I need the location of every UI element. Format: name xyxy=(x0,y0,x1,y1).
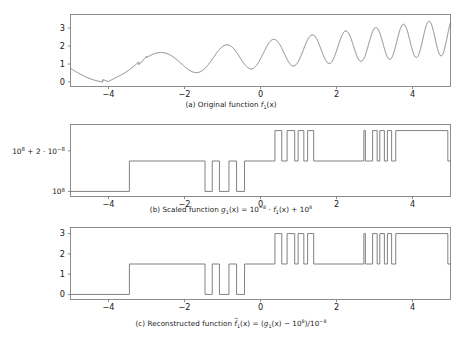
minus-c: − xyxy=(284,319,290,328)
x-tick-label: −4 xyxy=(102,302,114,312)
x-tick-label: −2 xyxy=(178,89,190,99)
panel-c-x-ticks: −4−2024 xyxy=(102,300,415,313)
panel-c-caption-formula: f~1(x) = (g1(x) − 108)/10−8 xyxy=(234,319,326,328)
eq-b: = xyxy=(241,205,247,214)
scale-exp-b: −8 xyxy=(259,204,266,210)
panel-a-original-function: 0123 −4−2024 (a) Original function f1(x) xyxy=(0,0,462,118)
x-tick-label: 0 xyxy=(258,302,263,312)
panel-a-caption: (a) Original function f1(x) xyxy=(0,100,462,110)
panel-a-x-ticks: −4−2024 xyxy=(102,87,415,100)
panel-b-scaled-function: 108108 + 2 · 10−8 −4−2024 (b) Scaled fun… xyxy=(0,112,462,224)
y-tick-label: 0 xyxy=(60,77,65,87)
eq-c: = xyxy=(252,319,258,328)
panel-a-caption-symbol: f1(x) xyxy=(261,100,277,109)
panel-c-reconstructed-function: 0123 −4−2024 (c) Reconstructed function … xyxy=(0,218,462,338)
y-tick-label: 108 xyxy=(52,187,65,197)
panel-c-y-ticks: 0123 xyxy=(60,228,71,299)
panel-a-y-ticks: 0123 xyxy=(60,23,71,87)
y-tick-label: 108 + 2 · 10−8 xyxy=(12,146,65,156)
panel-b-caption-prefix: (b) Scaled function xyxy=(150,205,219,214)
figure-three-panel-precision-loss: 0123 −4−2024 (a) Original function f1(x)… xyxy=(0,0,462,338)
fn-arg-b: (x) xyxy=(279,205,289,214)
y-tick-label: 2 xyxy=(60,249,65,259)
y-tick-label: 3 xyxy=(60,228,65,238)
panel-a-data-curve xyxy=(71,21,451,82)
y-tick-label: 3 xyxy=(60,23,65,33)
offset-base-b: 10 xyxy=(300,205,309,214)
fn-arg-c: (x) xyxy=(240,319,250,328)
panel-b-data-curve xyxy=(71,131,451,192)
panel-c-caption: (c) Reconstructed function f~1(x) = (g1(… xyxy=(0,318,462,330)
x-tick-label: 4 xyxy=(410,302,415,312)
x-tick-label: 2 xyxy=(334,302,339,312)
offset-exp-b: 8 xyxy=(309,204,312,210)
g-arg-c: (x) xyxy=(272,319,282,328)
scale-exp-c: −8 xyxy=(319,318,326,324)
y-tick-label: 2 xyxy=(60,41,65,51)
g-arg-b: (x) xyxy=(229,205,239,214)
fn-arg-a: (x) xyxy=(267,100,277,109)
y-tick-label: 0 xyxy=(60,289,65,299)
scale-base-c: 10 xyxy=(310,319,319,328)
x-tick-label: 2 xyxy=(334,89,339,99)
tilde-accent-c: ~ xyxy=(234,315,239,321)
scale-base-b: 10 xyxy=(250,205,259,214)
panel-c-data-curve xyxy=(71,234,451,295)
y-tick-label: 1 xyxy=(60,269,65,279)
panel-b-caption: (b) Scaled function g1(x) = 10−8 · f1(x)… xyxy=(0,204,462,216)
panel-c-caption-prefix: (c) Reconstructed function xyxy=(135,319,232,328)
panel-b-axes xyxy=(71,125,451,197)
panel-a-caption-prefix: (a) Original function xyxy=(185,100,258,109)
dot-b: · xyxy=(269,205,271,214)
y-tick-label: 1 xyxy=(60,59,65,69)
panel-b-caption-formula: g1(x) = 10−8 · f1(x) + 108 xyxy=(221,205,312,214)
x-tick-label: −4 xyxy=(102,89,114,99)
x-tick-label: 4 xyxy=(410,89,415,99)
panel-c-axes xyxy=(71,228,451,300)
offset-base-c: 10 xyxy=(292,319,301,328)
x-tick-label: −2 xyxy=(178,302,190,312)
f-tilde-c: f~ xyxy=(234,319,237,328)
panel-b-y-ticks: 108108 + 2 · 10−8 xyxy=(12,146,70,196)
plus-b: + xyxy=(291,205,297,214)
x-tick-label: 0 xyxy=(258,89,263,99)
panel-a-axes xyxy=(71,15,451,87)
